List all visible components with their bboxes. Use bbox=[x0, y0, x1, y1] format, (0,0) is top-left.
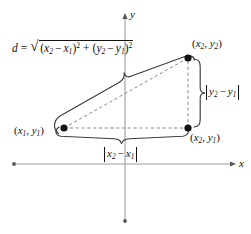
radical-sign-icon: √ bbox=[30, 39, 38, 54]
absy-sub-b: 1 bbox=[233, 91, 237, 99]
absx-minus: − bbox=[118, 147, 124, 159]
formula-plus: + bbox=[83, 42, 90, 54]
y-axis-endpoint-bottom-icon bbox=[123, 219, 127, 223]
point-marker-x2y2 bbox=[184, 54, 191, 61]
vertical-leg-label: y2−y1 bbox=[206, 85, 239, 100]
x2y2-close-paren: ) bbox=[218, 37, 222, 49]
term2-minus: − bbox=[107, 42, 114, 54]
formula-equals: = bbox=[21, 42, 28, 54]
horizontal-leg-label: x2−x1 bbox=[104, 147, 137, 162]
term1-exponent: 2 bbox=[76, 41, 80, 50]
x-axis-endpoint-left-icon bbox=[12, 162, 16, 166]
point-label-x1y1: (x1, y1) bbox=[14, 125, 44, 138]
point-label-x2y1: (x2, y1) bbox=[190, 132, 220, 145]
vertical-brace-shape bbox=[194, 59, 205, 127]
abs-x-group: x2−x1 bbox=[104, 147, 137, 162]
term1-sub-a: 2 bbox=[49, 47, 53, 56]
figure-canvas bbox=[0, 0, 251, 234]
term2-sub-a: 2 bbox=[102, 47, 106, 56]
distance-formula-figure: d= √ (x2−x1)2+(y2−y1)2 (x2, y2) (x1, y1)… bbox=[0, 0, 251, 234]
abs-y-group: y2−y1 bbox=[206, 85, 239, 100]
x2y1-close-paren: ) bbox=[216, 131, 220, 143]
formula-radicand: (x2−x1)2+(y2−y1)2 bbox=[39, 40, 133, 56]
y-axis-arrow-up-icon bbox=[122, 13, 127, 19]
absx-sub-a: 2 bbox=[112, 153, 116, 161]
absy-minus: − bbox=[220, 85, 226, 97]
formula-lhs: d bbox=[12, 42, 18, 54]
x-axis-label: x bbox=[239, 158, 244, 169]
formula-radical-group: √ (x2−x1)2+(y2−y1)2 bbox=[30, 40, 133, 56]
horizontal-brace-shape bbox=[56, 127, 188, 144]
x-axis-arrow-right-icon bbox=[230, 161, 236, 166]
point-label-x2y2: (x2, y2) bbox=[192, 38, 222, 51]
term1-minus: − bbox=[55, 42, 62, 54]
y-axis-label: y bbox=[130, 9, 135, 20]
distance-formula: d= √ (x2−x1)2+(y2−y1)2 bbox=[12, 40, 133, 56]
dashed-triangle-group bbox=[64, 58, 188, 128]
triangle-hypotenuse bbox=[64, 58, 188, 128]
absx-sub-b: 1 bbox=[131, 153, 135, 161]
x1y1-close-paren: ) bbox=[40, 124, 44, 136]
term2-exponent: 2 bbox=[129, 41, 133, 50]
point-marker-x1y1 bbox=[60, 124, 67, 131]
absy-sub-a: 2 bbox=[214, 91, 218, 99]
